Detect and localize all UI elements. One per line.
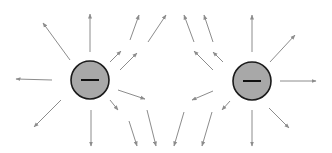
field-line-arrow-icon: [184, 15, 194, 42]
field-line-arrow-icon: [16, 79, 52, 80]
field-line-arrow-icon: [213, 52, 223, 62]
field-line-arrow-icon: [202, 112, 212, 146]
field-line-arrow-icon: [147, 110, 156, 146]
field-line-arrow-icon: [192, 91, 213, 100]
field-diagram: [0, 0, 332, 153]
field-line-arrow-icon: [148, 15, 166, 42]
field-line-arrow-icon: [118, 90, 145, 99]
field-line-arrow-icon: [110, 100, 118, 110]
field-line-arrow-icon: [194, 51, 213, 70]
negative-charge-left: [71, 61, 109, 99]
field-line-arrow-icon: [130, 15, 139, 40]
field-line-arrow-icon: [129, 121, 137, 146]
field-lines-canvas: [0, 0, 332, 153]
charges: [71, 61, 271, 100]
field-line-arrow-icon: [34, 100, 61, 127]
field-line-arrow-icon: [222, 101, 230, 110]
field-line-arrow-icon: [110, 51, 121, 62]
field-line-arrow-icon: [43, 23, 70, 60]
field-line-arrow-icon: [269, 108, 289, 128]
negative-charge-right: [233, 62, 271, 100]
field-line-arrow-icon: [270, 35, 295, 62]
field-line-arrow-icon: [204, 15, 213, 42]
field-line-arrow-icon: [120, 53, 137, 70]
field-line-arrow-icon: [174, 112, 184, 146]
